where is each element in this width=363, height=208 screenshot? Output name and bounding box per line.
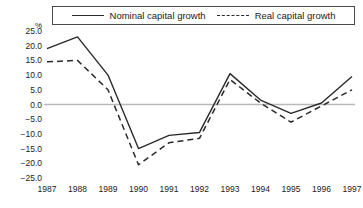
chart-plot-area [0, 0, 363, 208]
series-line-nominal-capital-growth [47, 37, 352, 149]
series-line-real-capital-growth [47, 60, 352, 164]
chart-figure: Nominal capital growth Real capital grow… [0, 0, 363, 208]
